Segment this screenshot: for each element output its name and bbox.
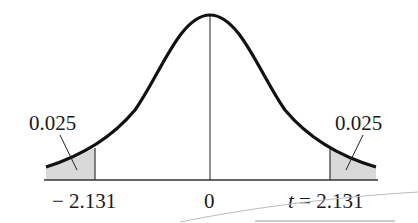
left-tail-area-label: 0.025 (29, 111, 76, 135)
left-critical-label: − 2.131 (52, 189, 116, 213)
density-curve (46, 15, 376, 167)
center-label: 0 (204, 189, 215, 213)
right-tail-area-label: 0.025 (335, 111, 382, 135)
right-critical-label: t = 2.131 (288, 189, 363, 213)
right-critical-value: = 2.131 (294, 189, 364, 213)
t-distribution-chart: 0.025 0.025 − 2.131 0 t = 2.131 (0, 0, 418, 223)
